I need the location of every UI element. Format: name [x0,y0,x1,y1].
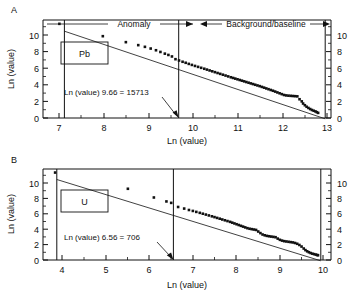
data-point [198,212,201,215]
panel-a-xtick-8: 8 [101,123,106,133]
data-point [174,58,177,61]
data-point [165,200,168,203]
data-point [216,72,219,75]
data-point [208,214,211,217]
data-point [153,196,156,199]
panel-a-xaxis: 7 8 9 10 11 12 13 [56,113,332,133]
panel-a-ytick-6: 6 [34,64,39,74]
data-point [164,52,167,55]
data-point [183,207,186,210]
data-point [265,87,268,90]
panel-a-ytick-2: 2 [34,97,39,107]
data-point [144,46,147,49]
data-point [216,217,219,220]
data-point [192,210,195,213]
panel-a-ytick-right-8: 8 [337,47,342,57]
panel-a-plot: A Anomaly Background/baseline [0,0,360,147]
panel-a-ytick-right-4: 4 [337,80,342,90]
data-point [54,171,57,174]
panel-a-xtick-9: 9 [146,123,151,133]
data-point [226,220,229,223]
data-point [289,95,292,98]
panel-a-xtick-13: 13 [322,123,332,133]
data-point [213,216,216,219]
data-point [278,92,281,95]
panel-a-annotation: Ln (value) 9.66 = 15713 [64,88,179,118]
panel-b-xaxis: 4 5 6 7 8 9 10 [59,255,328,275]
panel-a-xtick-12: 12 [278,123,288,133]
panel-b-xtick-4: 4 [59,265,64,275]
data-point [245,81,248,84]
data-point [194,65,197,68]
panel-a-xtick-7: 7 [56,123,61,133]
panel-a-ytick-right-6: 6 [337,64,342,74]
data-point [125,41,128,44]
data-point [191,64,194,67]
panel-b-ytick-right-6: 6 [337,209,342,219]
data-point [236,78,239,81]
panel-a-letter: A [11,5,17,15]
data-point [298,98,301,101]
panel-a-ytick-right-0: 0 [337,114,342,124]
data-point [205,213,208,216]
panel-b-ytick-right-4: 4 [337,225,342,235]
panel-a-ytick-right-10: 10 [337,31,347,41]
panel-b-ytick-right-2: 2 [337,240,342,250]
data-point [218,217,221,220]
panel-b-ytick-0: 0 [34,256,39,266]
data-point [203,67,206,70]
panel-b-plot: B 0 2 4 [0,147,360,294]
panel-b-xtick-8: 8 [233,265,238,275]
data-point [224,219,227,222]
panel-a-data-points [58,23,319,115]
data-point [170,202,173,205]
data-point [219,73,222,76]
data-point [208,69,211,72]
data-point [227,75,230,78]
data-point [211,70,214,73]
data-point [197,66,200,69]
data-point [211,215,214,218]
panel-b-element-label: U [81,197,88,207]
data-point [214,71,217,74]
panel-a-annotation-text: Ln (value) 9.66 = 15713 [64,88,149,97]
data-point [184,61,187,64]
panel-a-ytick-4: 4 [34,80,39,90]
panel-b-xtick-6: 6 [146,265,151,275]
panel-a-xtick-10: 10 [188,123,198,133]
panel-a-yaxis-left: 0 2 4 6 8 10 [29,27,48,124]
data-point [177,206,180,209]
panel-b-xtick-9: 9 [277,265,282,275]
panel-a-xtick-11: 11 [233,123,242,133]
data-point [230,76,233,79]
panel-a-yaxis-title: Ln (value) [6,49,16,89]
panel-b-yaxis-left: 0 2 4 6 8 10 [29,175,48,265]
panel-b-annotation: Ln (value) 6.56 = 706 [64,233,173,260]
panel-a-ytick-10: 10 [29,31,39,41]
data-point [294,95,297,98]
data-point [221,218,224,221]
panel-a-axes [43,20,331,118]
data-point [155,49,158,52]
panel-b-xtick-5: 5 [103,265,108,275]
data-point [222,73,225,76]
data-point [188,209,191,212]
panel-b-ytick-10: 10 [29,179,39,189]
panel-b-ytick-8: 8 [34,194,39,204]
panel-b-axes [43,169,331,260]
panel-b-yaxis-title: Ln (value) [6,194,16,234]
data-point [254,83,257,86]
data-point [274,90,277,93]
data-point [224,74,227,77]
data-point [202,212,205,215]
data-point [317,254,320,257]
data-point [281,93,284,96]
data-point [206,68,209,71]
data-point [200,67,203,70]
panel-b-xtick-7: 7 [190,265,195,275]
panel-b-fit-line [57,180,321,261]
panel-b-ytick-6: 6 [34,209,39,219]
panel-b-ytick-right-8: 8 [337,194,342,204]
data-point [171,55,174,58]
panel-b-xaxis-title: Ln (value) [167,280,207,290]
